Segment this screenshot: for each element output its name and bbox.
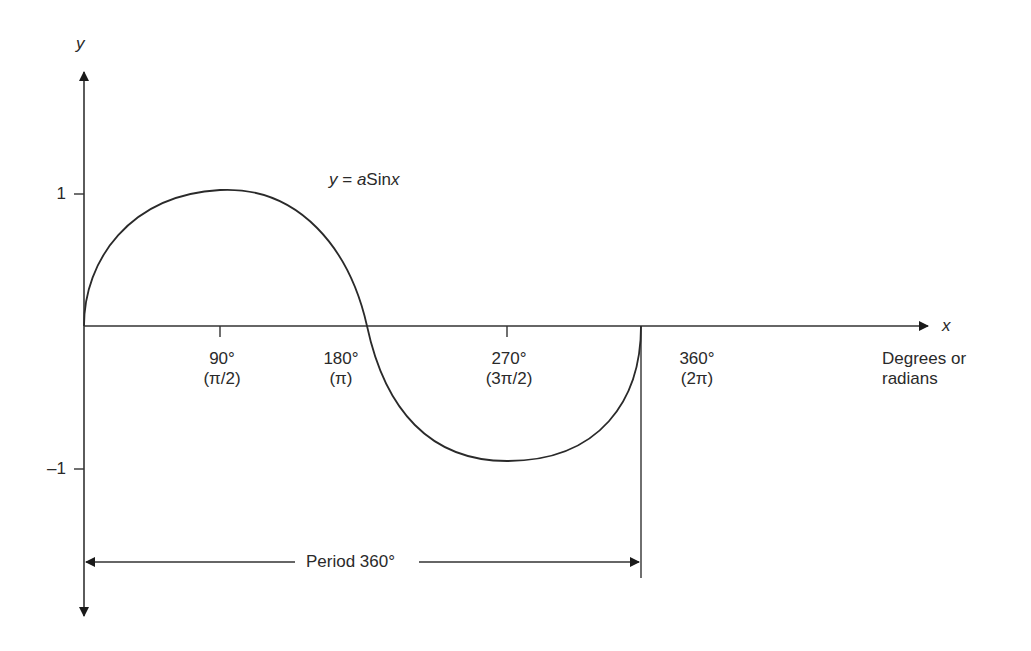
x-tick-label-90: 90° (π/2) [203,349,240,389]
x-unit-label: Degrees or radians [882,349,966,389]
x-tick-deg: 270° [486,349,533,369]
period-label: Period 360° [306,552,395,572]
eq-x: x [391,170,400,189]
eq-y: y [329,170,338,189]
eq-equals: = [338,170,357,189]
y-tick-label-1: 1 [57,184,66,204]
x-unit-line-2: radians [882,369,966,389]
x-tick-label-270: 270° (3π/2) [486,349,533,389]
x-tick-rad: (π) [323,369,358,389]
x-tick-rad: (3π/2) [486,369,533,389]
sine-wave-diagram [0,0,1031,651]
x-tick-rad: (2π) [679,369,714,389]
eq-sin: Sin [366,170,391,189]
y-tick-label-minus-1: –1 [47,459,66,479]
x-unit-line-1: Degrees or [882,349,966,369]
x-tick-label-360: 360° (2π) [679,349,714,389]
curve-equation-label: y = aSinx [329,170,399,190]
x-tick-rad: (π/2) [203,369,240,389]
x-tick-label-180: 180° (π) [323,349,358,389]
eq-a: a [357,170,366,189]
x-tick-deg: 90° [203,349,240,369]
x-tick-deg: 360° [679,349,714,369]
x-tick-deg: 180° [323,349,358,369]
x-axis-label: x [942,316,951,336]
y-axis-label: y [76,34,85,54]
